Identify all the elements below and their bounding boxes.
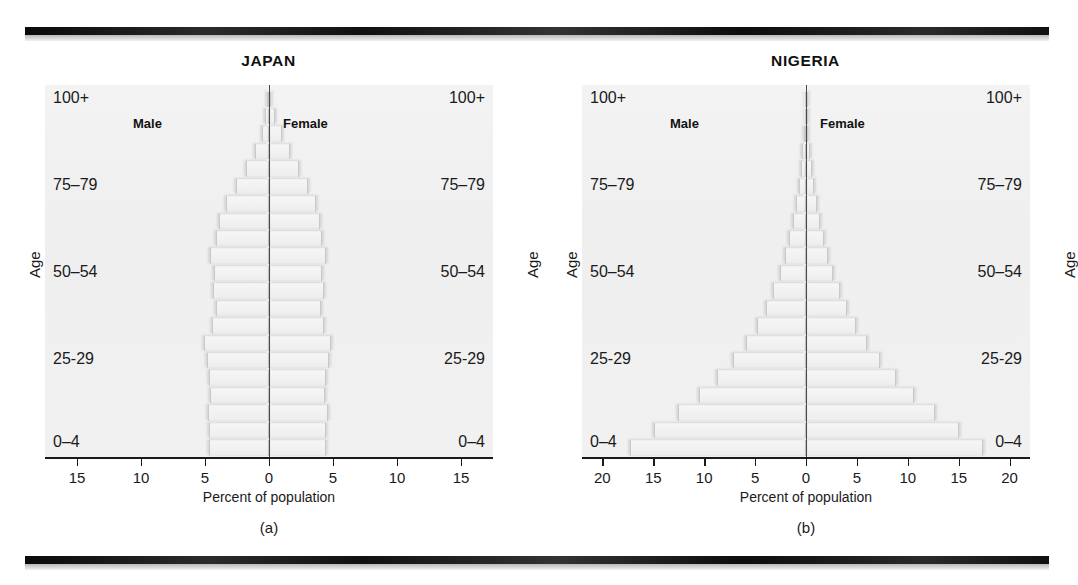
bar-male [209, 370, 269, 385]
age-axis-label-left-japan: Age [26, 251, 43, 278]
bar-male [208, 405, 269, 420]
bar-male [212, 318, 269, 333]
bar-female [269, 161, 299, 176]
bar-male [793, 214, 806, 229]
x-axis-tick-label: 15 [645, 469, 662, 486]
bar-female [269, 353, 329, 368]
x-axis-tick-label: 15 [950, 469, 967, 486]
bar-female [806, 196, 817, 211]
sub-caption-nigeria: (b) [582, 519, 1030, 536]
bar-male [262, 126, 269, 141]
bar-male [236, 179, 269, 194]
figure-bottom-rule [25, 556, 1049, 570]
bar-male [799, 179, 806, 194]
x-axis-tick [461, 458, 462, 466]
bar-male [209, 423, 269, 438]
panel-title-japan: JAPAN [0, 52, 537, 70]
bar-female [269, 405, 328, 420]
x-axis-tick-label: 0 [802, 469, 810, 486]
bar-female [806, 336, 867, 351]
bar-male [213, 283, 269, 298]
bar-female [806, 440, 983, 455]
x-axis-tick [141, 458, 142, 466]
x-axis-tick [269, 458, 270, 466]
rule-bar [25, 556, 1049, 564]
bar-female [269, 248, 326, 263]
x-axis-tick [1010, 458, 1011, 466]
x-axis-tick-label: 15 [453, 469, 470, 486]
panel-japan: JAPAN Age Age 100+ 100+ 75–79 75–79 50–5… [0, 46, 537, 551]
x-axis-tick-label: 10 [133, 469, 150, 486]
x-axis-tick-label: 0 [265, 469, 273, 486]
x-axis-tick-label: 10 [899, 469, 916, 486]
x-axis-tick [77, 458, 78, 466]
bar-female [269, 231, 322, 246]
bar-female [806, 283, 840, 298]
bar-female [806, 318, 856, 333]
bar-male [654, 423, 806, 438]
rule-shadow [25, 564, 1049, 570]
bar-male [766, 301, 806, 316]
bar-female [269, 266, 322, 281]
panel-title-nigeria: NIGERIA [537, 52, 1074, 70]
bar-male [214, 266, 269, 281]
rule-bar [25, 27, 1049, 35]
bar-male [785, 248, 806, 263]
bar-female [806, 388, 914, 403]
population-pyramid-figure: JAPAN Age Age 100+ 100+ 75–79 75–79 50–5… [0, 46, 1074, 551]
x-axis-tick [755, 458, 756, 466]
bar-female [269, 388, 325, 403]
bar-male [216, 301, 269, 316]
bar-male [780, 266, 806, 281]
bar-male [678, 405, 806, 420]
age-axis-label-left-nigeria: Age [563, 251, 580, 278]
bar-female [806, 231, 824, 246]
bar-female [269, 370, 326, 385]
bar-female [269, 126, 282, 141]
bar-male [210, 248, 269, 263]
bar-male [246, 161, 269, 176]
panel-container: JAPAN Age Age 100+ 100+ 75–79 75–79 50–5… [0, 46, 1074, 551]
bar-male [255, 144, 269, 159]
x-axis-title-nigeria: Percent of population [582, 489, 1030, 505]
bar-male [796, 196, 806, 211]
bar-female [806, 266, 833, 281]
bar-female [806, 353, 880, 368]
x-axis-tick [806, 458, 807, 466]
x-axis-tick-label: 5 [201, 469, 209, 486]
figure-top-rule [25, 27, 1049, 41]
bar-female [806, 370, 896, 385]
bar-female [269, 318, 324, 333]
bar-male [789, 231, 806, 246]
bar-female [806, 301, 847, 316]
center-axis-nigeria [806, 85, 807, 457]
bar-male [773, 283, 806, 298]
bar-female [269, 179, 308, 194]
x-axis-tick [959, 458, 960, 466]
x-axis-tick [857, 458, 858, 466]
bar-female [269, 283, 324, 298]
bar-male [209, 440, 269, 455]
x-axis-tick-label: 20 [594, 469, 611, 486]
x-axis-tick-label: 5 [751, 469, 759, 486]
bar-female [269, 301, 321, 316]
pyramid-plot-nigeria [582, 91, 1030, 457]
bar-male [757, 318, 806, 333]
bar-female [806, 248, 828, 263]
bar-male [219, 214, 269, 229]
bar-male [207, 353, 269, 368]
bar-female [806, 214, 820, 229]
center-axis-japan [269, 85, 270, 457]
bar-female [806, 179, 814, 194]
panel-nigeria: NIGERIA Age Age 100+ 100+ 75–79 75–79 50… [537, 46, 1074, 551]
sub-caption-japan: (a) [45, 519, 493, 536]
x-axis-tick [397, 458, 398, 466]
bar-male [210, 388, 269, 403]
bar-female [806, 405, 935, 420]
bar-male [630, 440, 806, 455]
x-axis-tick-label: 10 [696, 469, 713, 486]
x-axis-tick [704, 458, 705, 466]
x-axis-tick [333, 458, 334, 466]
x-axis-tick-label: 5 [329, 469, 337, 486]
bar-female [269, 196, 316, 211]
